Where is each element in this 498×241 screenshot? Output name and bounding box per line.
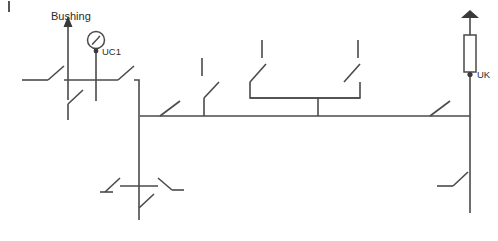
uk-bushing-arrow-icon <box>461 10 479 18</box>
diagram-canvas: Bushing UC1 UK <box>0 0 498 241</box>
uc1-label: UC1 <box>102 46 121 57</box>
coupler-left-elbow <box>250 82 264 98</box>
bay-center-coupler <box>250 40 360 116</box>
coupler-right-disconnector-blade <box>344 64 360 82</box>
lower-left-disconnector-blade <box>68 90 83 104</box>
busbar-disconnector-right-blade <box>430 101 450 116</box>
voltage-sensor-wave-icon <box>92 36 100 45</box>
bottom-right-disconnector-blade <box>158 178 172 190</box>
bay-right-uk <box>437 10 479 213</box>
single-line-diagram: Bushing UC1 UK <box>0 0 498 241</box>
busbar-disconnector-left-blade <box>160 101 180 116</box>
bushing-label: Bushing <box>51 10 91 22</box>
bay-left-breaker <box>118 66 139 116</box>
busbar-disconnector-left <box>160 101 180 116</box>
busbar-disconnector-right <box>430 101 450 116</box>
uk-lower-disconnector-blade <box>453 172 468 186</box>
bottom-lower-disconnector-blade <box>139 194 154 208</box>
uc1-tap-dot-icon <box>94 49 99 54</box>
coupler-left-disconnector-blade <box>250 64 266 82</box>
uk-arrester-block-icon <box>464 35 476 72</box>
coupler-right-elbow <box>264 82 360 98</box>
bay-center-left <box>202 58 219 116</box>
left-breaker-riser <box>134 80 139 116</box>
bay-bottom-left <box>100 116 184 220</box>
uk-tap-dot-icon <box>467 72 472 77</box>
upper-left-disconnector-blade <box>48 66 64 80</box>
uk-label: UK <box>477 69 491 80</box>
center-left-disconnector-blade <box>204 82 219 98</box>
bay-left-incomer <box>22 16 118 120</box>
bottom-left-disconnector-blade <box>105 178 120 192</box>
left-breaker-disconnector-blade <box>118 66 134 80</box>
